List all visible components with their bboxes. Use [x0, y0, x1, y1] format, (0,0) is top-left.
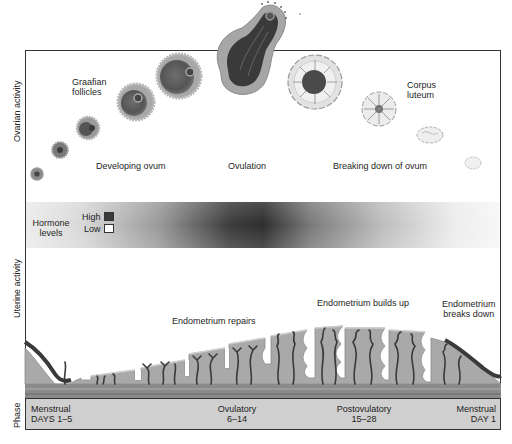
breaking-down-of-ovum-label: Breaking down of ovum	[333, 161, 427, 171]
phase-1-name: Ovulatory	[212, 404, 262, 414]
graafian-follicle-1-icon	[118, 84, 154, 120]
endometrium-builds-up-label: Endometrium builds up	[317, 298, 409, 308]
hormone-title-line2: levels	[31, 228, 71, 238]
follicle-stage-1-icon	[31, 168, 43, 180]
phase-menstrual-end: Menstrual DAY 1	[456, 404, 496, 424]
corpus-luteum-medium-icon	[362, 92, 396, 126]
phase-menstrual-start: Menstrual DAYS 1–5	[31, 404, 72, 424]
phase-2-days: 15–28	[331, 414, 397, 424]
phase-postovulatory: Postovulatory 15–28	[331, 404, 397, 424]
endometrium-breaks-down-label: Endometrium breaks down	[442, 299, 496, 319]
hormone-title-line1: Hormone	[31, 218, 71, 228]
hormone-low-swatch	[104, 224, 114, 233]
phase-0-name: Menstrual	[31, 404, 72, 414]
endometrium-illustration	[25, 318, 501, 398]
corpus-line2: luteum	[407, 90, 436, 100]
corpus-albicans-small-icon	[417, 127, 443, 143]
hormone-high-swatch	[104, 212, 114, 221]
developing-ovum-label: Developing ovum	[96, 161, 166, 171]
hormone-high-label: High	[82, 212, 101, 222]
ovulation-label: Ovulation	[228, 161, 266, 171]
corpus-luteum-large-icon	[288, 55, 342, 109]
follicle-stage-3-icon	[77, 117, 99, 139]
phase-3-name: Menstrual	[456, 404, 496, 414]
phase-3-days: DAY 1	[456, 414, 496, 424]
corpus-line1: Corpus	[407, 80, 436, 90]
graafian-follicle-2-icon	[157, 54, 201, 98]
follicle-stage-2-icon	[52, 142, 68, 158]
phase-ovulatory: Ovulatory 6–14	[212, 404, 262, 424]
phase-1-days: 6–14	[212, 414, 262, 424]
breaks-line1: Endometrium	[442, 299, 496, 309]
phase-2-name: Postovulatory	[331, 404, 397, 414]
corpus-albicans-tiny-icon	[465, 157, 481, 169]
graafian-line2: follicles	[72, 87, 107, 97]
hormone-levels-title: Hormone levels	[31, 218, 71, 238]
hormone-low-label: Low	[84, 224, 101, 234]
phase-0-days: DAYS 1–5	[31, 414, 72, 424]
corpus-luteum-label: Corpus luteum	[407, 80, 436, 100]
graafian-follicles-label: Graafian follicles	[72, 77, 107, 97]
uterine-activity-axis-label: Uterine activity	[12, 259, 22, 318]
phase-bar: Menstrual DAYS 1–5 Ovulatory 6–14 Postov…	[25, 398, 501, 430]
phase-axis-label: Phase	[12, 402, 22, 428]
graafian-line1: Graafian	[72, 77, 107, 87]
